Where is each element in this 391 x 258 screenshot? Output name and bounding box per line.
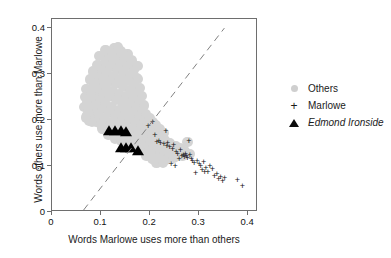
plot-area: ++++++++++++++++++++++++++++++++++++++++… [51, 18, 257, 211]
y-tick-mark [47, 165, 51, 166]
data-point-marlowe: + [240, 182, 245, 191]
legend-label: Marlowe [308, 100, 346, 111]
x-tick-label: 0.3 [192, 216, 205, 227]
data-point-others [81, 112, 91, 122]
legend-label: Edmond Ironside [308, 117, 384, 128]
x-tick-mark [149, 211, 150, 215]
y-axis-title: Words others use more than Marlowe [33, 20, 44, 220]
x-axis-title: Words Marlowe uses more than others [51, 234, 257, 245]
x-tick-mark [247, 211, 248, 215]
chart-legend: Others+MarloweEdmond Ironside [286, 80, 388, 131]
data-point-edmond-ironside [120, 126, 132, 136]
data-point-edmond-ironside [132, 145, 144, 155]
legend-label: Others [308, 83, 338, 94]
legend-item: +Marlowe [286, 97, 388, 114]
data-point-others [86, 88, 96, 98]
triangle-icon [286, 119, 302, 127]
scatter-plot-figure: ++++++++++++++++++++++++++++++++++++++++… [0, 0, 391, 258]
y-tick-mark [47, 27, 51, 28]
data-point-others [132, 61, 142, 71]
plus-icon: + [286, 101, 302, 111]
x-tick-mark [198, 211, 199, 215]
y-tick-mark [47, 73, 51, 74]
y-tick-mark [47, 211, 51, 212]
legend-item: Others [286, 80, 388, 97]
data-point-marlowe: + [186, 137, 191, 146]
legend-item: Edmond Ironside [286, 114, 388, 131]
y-tick-mark [47, 119, 51, 120]
data-point-marlowe: + [150, 117, 155, 126]
data-layer: ++++++++++++++++++++++++++++++++++++++++… [52, 19, 256, 210]
x-tick-label: 0.1 [93, 216, 106, 227]
data-point-marlowe: + [163, 127, 168, 136]
x-tick-label: 0.2 [142, 216, 155, 227]
x-tick-label: 0 [48, 216, 53, 227]
x-tick-label: 0.4 [241, 216, 254, 227]
data-point-others [158, 158, 168, 168]
x-tick-mark [100, 211, 101, 215]
circle-icon [286, 85, 302, 92]
data-point-marlowe: + [222, 173, 227, 182]
x-tick-mark [51, 211, 52, 215]
